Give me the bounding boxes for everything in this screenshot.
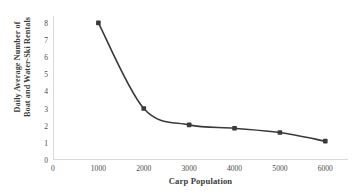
plot-area: 012345678 0100020003000400050006000	[53, 16, 348, 160]
y-tick-label: 4	[44, 87, 48, 96]
y-axis-title: Daily Average Number of Boat and Water-S…	[8, 0, 38, 142]
data-point-marker	[232, 126, 237, 131]
x-tick-label: 0	[51, 164, 55, 173]
data-point-marker	[96, 21, 101, 26]
y-tick-label: 5	[44, 70, 48, 79]
y-tick-label: 2	[44, 121, 48, 130]
chart-figure: Daily Average Number of Boat and Water-S…	[0, 0, 360, 195]
x-axis-title: Carp Population	[53, 176, 348, 186]
data-series	[53, 16, 348, 160]
data-point-marker	[278, 130, 283, 135]
y-axis-title-line-2: Boat and Water-Ski Rentals	[23, 17, 34, 117]
x-tick-label: 2000	[136, 164, 151, 173]
data-point-marker	[141, 106, 146, 111]
y-axis-title-line-1: Daily Average Number of	[13, 22, 24, 113]
x-tick-label: 1000	[91, 164, 106, 173]
series-line	[98, 23, 325, 141]
data-point-marker	[323, 139, 328, 144]
y-tick-label: 0	[44, 156, 48, 165]
y-tick-label: 8	[44, 18, 48, 27]
data-point-marker	[187, 123, 192, 128]
x-tick-label: 6000	[318, 164, 333, 173]
y-tick-label: 3	[44, 104, 48, 113]
x-tick-label: 5000	[272, 164, 287, 173]
y-tick-label: 6	[44, 53, 48, 62]
series-markers	[96, 21, 328, 144]
y-tick-label: 7	[44, 36, 48, 45]
y-tick-label: 1	[44, 138, 48, 147]
x-tick-label: 4000	[227, 164, 242, 173]
x-tick-label: 3000	[182, 164, 197, 173]
